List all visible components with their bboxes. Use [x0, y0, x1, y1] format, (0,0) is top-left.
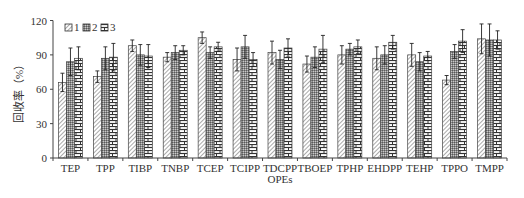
bar-series-2	[486, 40, 494, 158]
bar-series-3	[74, 58, 82, 158]
bar-series-3	[319, 49, 327, 158]
x-tick-label: TEHP	[406, 162, 434, 174]
bar-series-1	[443, 80, 451, 158]
bar-group-tehp	[408, 43, 432, 158]
x-tick-label: TNBP	[161, 162, 189, 174]
bar-series-1	[163, 57, 171, 158]
x-tick-label: TCIPP	[230, 162, 260, 174]
bar-series-2	[276, 59, 284, 158]
x-tick-label: TPPO	[441, 162, 468, 174]
bar-series-1	[303, 64, 311, 158]
legend-item-1: 1	[65, 21, 80, 33]
bar-series-3	[494, 40, 502, 158]
legend-label: 3	[110, 21, 116, 33]
bar-series-2	[171, 53, 179, 158]
x-tick-label: TPP	[96, 162, 115, 174]
bar-series-1	[198, 38, 206, 158]
bar-series-3	[389, 42, 397, 158]
bar-series-1	[408, 55, 416, 158]
bar-chart: 0306090120 TEPTPPTIBPTNBPTCEPTCIPPTDCPPT…	[0, 0, 524, 198]
bar-group-tep	[58, 47, 82, 158]
y-axis: 0306090120	[31, 15, 54, 165]
legend: 123	[65, 21, 116, 33]
y-tick-label: 30	[36, 118, 48, 130]
bar-series-3	[354, 47, 362, 158]
plot-area	[58, 24, 501, 158]
bar-series-3	[144, 56, 152, 158]
y-axis-title: 回收率（%）	[12, 59, 25, 123]
x-tick-label: TIBP	[128, 162, 152, 174]
bar-group-tdcpp	[268, 39, 292, 158]
bar-group-tibp	[128, 40, 152, 158]
bar-series-3	[284, 48, 292, 158]
bar-group-tnbp	[163, 46, 187, 158]
bar-series-2	[206, 53, 214, 158]
bar-series-2	[346, 49, 354, 158]
bar-series-1	[58, 82, 66, 158]
bar-series-1	[128, 46, 136, 158]
bar-series-1	[233, 59, 241, 158]
bar-series-3	[214, 47, 222, 158]
bar-series-1	[268, 53, 276, 158]
y-tick-label: 90	[36, 49, 48, 61]
legend-item-3: 3	[101, 21, 116, 33]
bar-series-3	[249, 59, 257, 158]
x-tick-label: TMPP	[475, 162, 504, 174]
bar-group-tmpp	[478, 24, 502, 158]
x-tick-label: TCEP	[197, 162, 224, 174]
bar-series-2	[416, 62, 424, 158]
legend-label: 1	[74, 21, 80, 33]
x-tick-label: TPHP	[336, 162, 363, 174]
bar-series-1	[338, 55, 346, 158]
bar-group-tboep	[303, 35, 327, 158]
bar-series-2	[136, 55, 144, 158]
bar-series-1	[373, 58, 381, 158]
bar-group-tcipp	[233, 35, 257, 158]
x-axis: TEPTPPTIBPTNBPTCEPTCIPPTDCPPTBOEPTPHPEHD…	[53, 158, 507, 174]
bar-series-2	[241, 47, 249, 158]
bar-series-2	[101, 58, 109, 158]
bar-group-tcep	[198, 32, 222, 158]
bar-group-tphp	[338, 40, 362, 158]
x-tick-label: TBOEP	[298, 162, 333, 174]
y-tick-label: 0	[42, 152, 48, 164]
x-axis-title: OPEs	[267, 173, 292, 185]
bar-series-3	[109, 57, 117, 158]
bar-group-tppo	[443, 30, 467, 158]
bar-series-3	[179, 50, 187, 158]
svg-text:回收率（%）: 回收率（%）	[12, 59, 25, 123]
bar-series-2	[381, 55, 389, 158]
y-tick-label: 60	[36, 83, 48, 95]
bar-series-1	[93, 77, 101, 158]
legend-label: 2	[92, 21, 98, 33]
bar-series-3	[424, 56, 432, 158]
bar-group-tpp	[93, 43, 117, 158]
legend-swatch	[83, 24, 90, 31]
x-tick-label: TEP	[61, 162, 81, 174]
bar-series-2	[66, 62, 74, 158]
bar-series-2	[451, 51, 459, 158]
legend-swatch	[65, 24, 72, 31]
bar-series-1	[478, 39, 486, 158]
legend-item-2: 2	[83, 21, 98, 33]
bar-series-3	[459, 41, 467, 158]
bar-series-2	[311, 57, 319, 158]
y-tick-label: 120	[31, 15, 48, 27]
x-tick-label: EHDPP	[367, 162, 402, 174]
bar-group-ehdpp	[373, 35, 397, 158]
legend-swatch	[101, 24, 108, 31]
